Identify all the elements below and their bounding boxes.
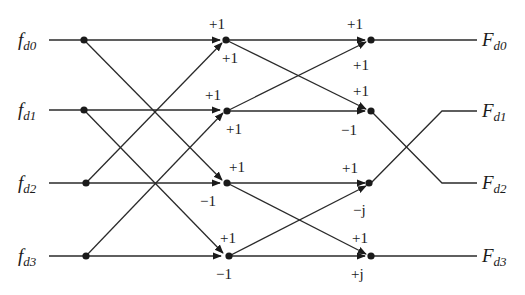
output-lines	[371, 40, 477, 256]
coef-s2-r0-below: +1	[353, 57, 369, 73]
coef-s2-r3-below: +j	[351, 266, 364, 282]
stage2-horizontal-branches	[226, 40, 365, 256]
node-stage1-2	[223, 179, 230, 186]
coef-s1-r2-below: −1	[200, 193, 216, 209]
stage1-horizontal-branches	[84, 40, 221, 256]
coef-s2-r3-above: +1	[352, 230, 368, 246]
stage1-coefficients: +1 +1 +1 +1 +1 −1 +1 −1	[200, 16, 245, 282]
stage1-nodes	[222, 36, 232, 259]
coef-s1-r2-above: +1	[229, 159, 245, 175]
node-input-2	[82, 179, 89, 186]
node-stage1-3	[225, 252, 232, 259]
input-labels: fd0 fd1 fd2 fd3	[18, 29, 37, 269]
input-label-0: fd0	[18, 29, 37, 53]
fft-flow-graph: fd0 fd1 fd2 fd3 Fd0 Fd1 Fd2 Fd3 +1 +1 +1…	[0, 0, 525, 295]
stage1-cross-branches	[84, 40, 223, 256]
coef-s2-r2-above: +1	[342, 160, 358, 176]
output-label-2: Fd2	[481, 172, 507, 196]
node-input-0	[80, 36, 87, 43]
node-stage1-1	[223, 107, 230, 114]
output-label-0: Fd0	[481, 29, 507, 53]
coef-s2-r1-below: −1	[341, 122, 357, 138]
coef-s1-r3-below: −1	[216, 266, 232, 282]
node-input-1	[80, 106, 87, 113]
input-lines	[49, 40, 86, 256]
stage2-cross-branches	[226, 40, 366, 256]
coef-s2-r0-above: +1	[347, 16, 363, 32]
node-input-3	[82, 252, 89, 259]
output-labels: Fd0 Fd1 Fd2 Fd3	[481, 29, 507, 269]
node-stage2-1	[367, 107, 374, 114]
input-label-1: fd1	[18, 99, 36, 123]
node-stage2-3	[367, 252, 374, 259]
coef-s1-r0-below: +1	[222, 50, 238, 66]
input-label-2: fd2	[18, 172, 37, 196]
node-stage1-0	[222, 36, 229, 43]
output-label-1: Fd1	[481, 100, 507, 124]
coef-s1-r1-above: +1	[205, 87, 221, 103]
coef-s2-r2-below: −j	[353, 202, 366, 218]
coef-s1-r0-above: +1	[209, 16, 225, 32]
input-label-3: fd3	[18, 245, 37, 269]
output-label-3: Fd3	[481, 245, 507, 269]
stage0-nodes	[80, 36, 89, 259]
node-stage2-0	[367, 36, 374, 43]
stage2-coefficients: +1 +1 +1 −1 +1 −j +1 +j	[341, 16, 369, 282]
coef-s1-r1-below: +1	[226, 121, 242, 137]
node-stage2-2	[365, 179, 372, 186]
coef-s2-r1-above: +1	[353, 83, 369, 99]
coef-s1-r3-above: +1	[220, 230, 236, 246]
